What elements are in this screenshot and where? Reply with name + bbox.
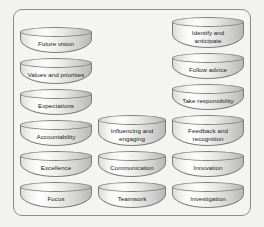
cylinder-identify-and-anticipate[interactable]: Identify and anticipate [172, 17, 244, 48]
cylinder-feedback-and-recognition[interactable]: Feedback and recognition [172, 115, 244, 146]
cylinder-label: Excellence [22, 160, 90, 176]
cylinder-follow-advice[interactable]: Follow advice [172, 53, 244, 79]
cylinder-label: Innovation [174, 160, 242, 176]
cylinder-innovation[interactable]: Innovation [172, 151, 244, 177]
cylinder-label: Expectations [22, 98, 90, 114]
middle-column: Influencing and engaging Communication T… [98, 17, 166, 208]
diagram-canvas: Future vision Values and priorities Expe… [0, 0, 264, 227]
cylinder-label: Focus [22, 191, 90, 207]
cylinder-label: Teamwork [100, 191, 164, 207]
cylinder-excellence[interactable]: Excellence [20, 151, 92, 177]
cylinder-label: Future vision [22, 36, 90, 52]
cylinder-investigation[interactable]: Investigation [172, 182, 244, 208]
cylinder-label: Investigation [174, 191, 242, 207]
cylinder-future-vision[interactable]: Future vision [20, 27, 92, 53]
cylinder-label: Take responsibility [174, 93, 242, 109]
cylinder-label: Identify and anticipate [174, 26, 242, 47]
left-column: Future vision Values and priorities Expe… [20, 17, 92, 208]
cylinder-accountability[interactable]: Accountability [20, 120, 92, 146]
cylinder-expectations[interactable]: Expectations [20, 89, 92, 115]
cylinder-label: Feedback and recognition [174, 124, 242, 145]
cylinder-label: Communication [100, 160, 164, 176]
diagram-columns: Future vision Values and priorities Expe… [13, 9, 251, 216]
cylinder-label: Influencing and engaging [100, 124, 164, 145]
cylinder-focus[interactable]: Focus [20, 182, 92, 208]
cylinder-label: Follow advice [174, 62, 242, 78]
right-column: Identify and anticipate Follow advice Ta… [172, 17, 244, 208]
cylinder-values-and-priorities[interactable]: Values and priorities [20, 58, 92, 84]
cylinder-label: Values and priorities [22, 67, 90, 83]
cylinder-communication[interactable]: Communication [98, 151, 166, 177]
cylinder-take-responsibility[interactable]: Take responsibility [172, 84, 244, 110]
cylinder-influencing-and-engaging[interactable]: Influencing and engaging [98, 115, 166, 146]
cylinder-label: Accountability [22, 129, 90, 145]
cylinder-teamwork[interactable]: Teamwork [98, 182, 166, 208]
